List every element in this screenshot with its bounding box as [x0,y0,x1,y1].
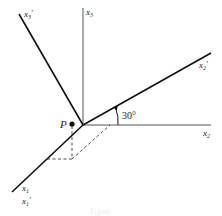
x3-label: x3 [85,7,93,18]
point-p-label: P [59,118,67,130]
x2-prime-axis [83,53,211,125]
point-p [69,121,74,126]
x1-prime-label: x1′ [21,196,31,207]
rotated-axes-diagram: P 30° x3 x3′ x2′ x2 x1 x1′ Figure [0,0,222,216]
figure-caption: Figure [90,207,111,216]
angle-arc [116,108,119,125]
x3-prime-axis [19,14,83,125]
angle-label: 30° [122,110,136,121]
x1-label: x1 [21,183,29,194]
x3-prime-label: x3′ [23,9,33,20]
x2-prime-label: x2′ [198,60,208,71]
x2-label: x2 [202,128,210,139]
